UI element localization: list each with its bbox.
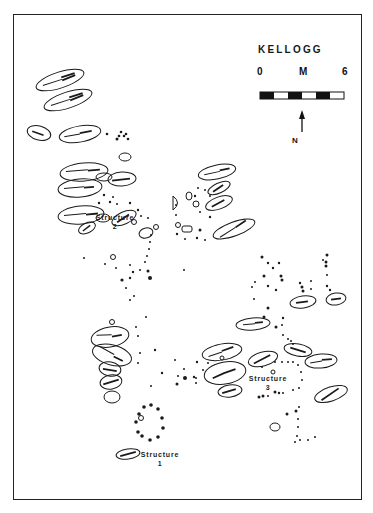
scale-bar [260,92,344,99]
burial-pits [26,65,350,461]
north-arrow-icon [299,110,305,132]
site-plan [0,0,373,513]
